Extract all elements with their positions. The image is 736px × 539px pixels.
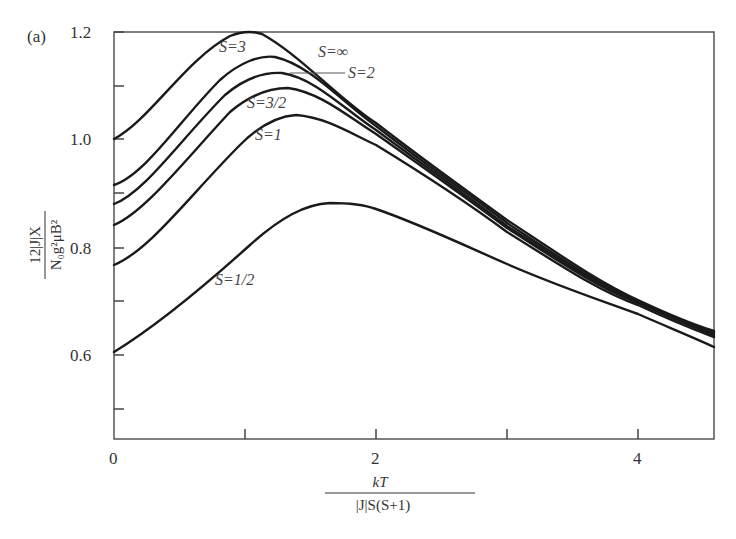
x-tick-label: 4 (633, 449, 642, 468)
curve-label-s32: S=3/2 (247, 94, 286, 111)
x-tick-label: 2 (371, 449, 380, 468)
curve-label-s1: S=1 (255, 126, 282, 143)
x-title-denominator: |J|S(S+1) (356, 497, 410, 514)
curve-label-sinf: S=∞ (318, 43, 348, 60)
curve-label-s3: S=3 (219, 38, 246, 55)
y-title-denominator: N₀g²μB² (48, 219, 64, 270)
curve-s-1-2 (114, 203, 714, 352)
curves (114, 32, 714, 352)
panel-label: (a) (27, 27, 46, 46)
x-axis-ticks (245, 429, 638, 439)
y-axis-title: 12|J|X N₀g²μB² (27, 211, 64, 279)
curve-s-3-2 (114, 88, 714, 335)
y-tick-label: 0.6 (70, 346, 91, 365)
curve-s-3 (114, 57, 714, 332)
x-title-numerator: kT (373, 474, 390, 490)
y-tick-label: 1.0 (70, 130, 91, 149)
curve-label-s12: S=1/2 (215, 271, 254, 288)
curve-s-1 (114, 115, 714, 337)
plot-frame (114, 32, 714, 439)
curve-label-s2: S=2 (348, 64, 375, 81)
y-tick-label: 1.2 (70, 23, 91, 42)
chart: 1.2 1.0 0.8 0.6 0 2 4 (a) S=3 S=∞ S=2 S=… (0, 0, 736, 539)
x-tick-label: 0 (109, 449, 118, 468)
x-axis-title: kT |J|S(S+1) (325, 474, 475, 514)
y-tick-label: 0.8 (70, 239, 91, 258)
y-title-numerator: 12|J|X (27, 226, 43, 264)
